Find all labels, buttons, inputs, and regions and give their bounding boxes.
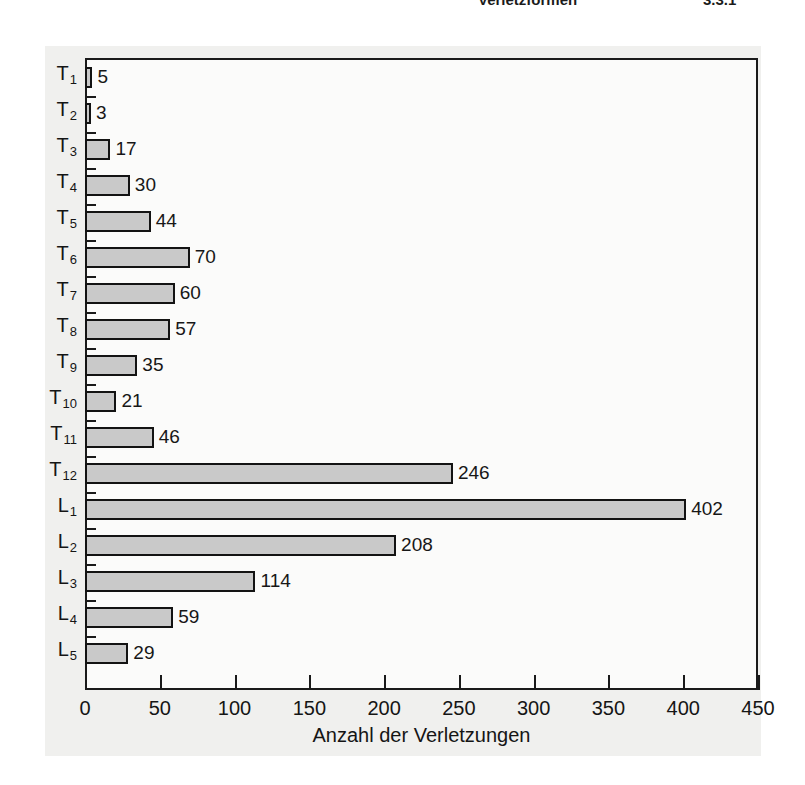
y-axis-tick (85, 204, 96, 206)
bar-value-label: 46 (159, 426, 180, 448)
bar-value-label: 208 (401, 534, 433, 556)
bar-row: 29 (85, 636, 758, 672)
y-axis-tick (85, 132, 96, 134)
y-axis-category-label: T2 (57, 98, 77, 123)
x-axis-tick-label: 450 (741, 696, 774, 720)
y-axis-category-label: L3 (58, 566, 77, 591)
bar (85, 607, 173, 628)
y-axis-tick (85, 600, 96, 602)
bar-value-label: 402 (691, 498, 723, 520)
bar (85, 103, 91, 124)
x-axis-tick (683, 675, 685, 690)
x-axis-tick (459, 675, 461, 690)
x-axis-tick-label: 200 (367, 696, 400, 720)
bar-row: 246 (85, 456, 758, 492)
bar-row: 59 (85, 600, 758, 636)
y-axis-tick (85, 528, 96, 530)
bar (85, 247, 190, 268)
bar-value-label: 17 (115, 138, 136, 160)
y-axis-category-label: T3 (57, 134, 77, 159)
bar (85, 283, 175, 304)
bar-row: 30 (85, 168, 758, 204)
bar-row: 35 (85, 348, 758, 384)
bar-value-label: 70 (195, 246, 216, 268)
y-axis-category-label: T7 (57, 278, 77, 303)
y-axis-category-label: T12 (49, 458, 77, 483)
x-axis-title: Anzahl der Verletzungen (85, 723, 758, 747)
bar-value-label: 114 (260, 570, 290, 592)
bar-row: 70 (85, 240, 758, 276)
bar-value-label: 246 (458, 462, 490, 484)
bar-row: 5 (85, 60, 758, 96)
y-axis-tick (85, 456, 96, 458)
x-axis-tick (534, 675, 536, 690)
y-axis-tick (85, 168, 96, 170)
y-axis-tick (85, 276, 96, 278)
y-axis-category-label: T9 (57, 350, 77, 375)
y-axis-category-label: L1 (58, 494, 77, 519)
y-axis-tick (85, 492, 96, 494)
bar-value-label: 30 (135, 174, 156, 196)
x-axis-tick-label: 100 (218, 696, 251, 720)
y-axis-category-label: T6 (57, 242, 77, 267)
bar-row: 114 (85, 564, 758, 600)
y-axis-category-label: T1 (57, 62, 77, 87)
x-axis-tick (758, 675, 760, 690)
bar (85, 535, 396, 556)
bar-row: 57 (85, 312, 758, 348)
bar (85, 355, 137, 376)
bar (85, 175, 130, 196)
y-axis-tick (85, 96, 96, 98)
bar (85, 319, 170, 340)
bar-value-label: 57 (175, 318, 196, 340)
y-axis-category-label: T10 (49, 386, 77, 411)
bar (85, 139, 110, 160)
bar-row: 402 (85, 492, 758, 528)
y-axis-tick (85, 348, 96, 350)
bar-value-label: 35 (142, 354, 163, 376)
x-axis-tick (160, 675, 162, 690)
x-axis-tick (309, 675, 311, 690)
bar-row: 21 (85, 384, 758, 420)
bar-value-label: 60 (180, 282, 201, 304)
y-axis-tick (85, 420, 96, 422)
bar (85, 67, 92, 88)
x-axis-tick-label: 300 (517, 696, 550, 720)
x-axis-tick-label: 50 (149, 696, 171, 720)
y-axis-category-label: L2 (58, 530, 77, 555)
x-axis-tick (235, 675, 237, 690)
bar-chart-figure: 531730447060573521462464022081145929 T1T… (0, 0, 805, 785)
y-axis-category-label: L4 (58, 602, 77, 627)
bar (85, 643, 128, 664)
bar (85, 499, 686, 520)
x-axis-tick (384, 675, 386, 690)
bar-row: 3 (85, 96, 758, 132)
bar-row: 208 (85, 528, 758, 564)
bar-row: 17 (85, 132, 758, 168)
y-axis-category-label: L5 (58, 638, 77, 663)
y-axis-category-label: T4 (57, 170, 77, 195)
y-axis-tick (85, 240, 96, 242)
y-axis-tick (85, 564, 96, 566)
x-axis-tick-label: 350 (592, 696, 625, 720)
bar-value-label: 59 (178, 606, 199, 628)
y-axis-tick (85, 312, 96, 314)
bar-value-label: 29 (133, 642, 154, 664)
bar (85, 427, 154, 448)
bar (85, 211, 151, 232)
x-axis-tick-label: 150 (293, 696, 326, 720)
bar (85, 571, 255, 592)
x-axis-tick (608, 675, 610, 690)
bar-value-label: 44 (156, 210, 177, 232)
x-axis-tick-label: 0 (79, 696, 90, 720)
bar-row: 44 (85, 204, 758, 240)
y-axis-category-label: T5 (57, 206, 77, 231)
bar-value-label: 5 (97, 66, 108, 88)
x-axis-tick-label: 250 (442, 696, 475, 720)
y-axis-category-label: T8 (57, 314, 77, 339)
bar-value-label: 3 (96, 102, 107, 124)
bar-row: 60 (85, 276, 758, 312)
y-axis-category-label: T11 (50, 422, 77, 447)
bar (85, 463, 453, 484)
y-axis-tick (85, 384, 96, 386)
